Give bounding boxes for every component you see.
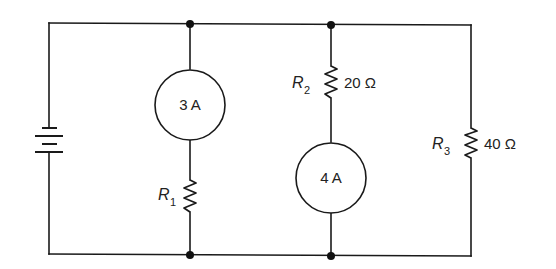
junction-node-bottom-1 — [186, 251, 194, 259]
resistor-r3-value: 40 Ω — [484, 135, 516, 152]
junction-node-top-1 — [186, 20, 194, 28]
resistor-r1-label: R 1 — [158, 186, 176, 208]
circuit-diagram: 3 A R 1 R 2 20 Ω 4 A R 3 40 Ω — [0, 0, 556, 269]
resistor-r2-icon — [325, 66, 337, 98]
current-source-4a-label: 4 A — [320, 169, 342, 186]
junction-node-bottom-2 — [327, 252, 335, 260]
junction-node-top-2 — [327, 21, 335, 29]
bottom-rail-wire — [49, 254, 471, 256]
resistor-r1-icon — [184, 180, 196, 212]
top-rail-wire — [49, 23, 471, 25]
current-source-4a: 4 A — [296, 143, 366, 213]
current-source-3a: 3 A — [155, 70, 225, 140]
svg-text:R: R — [432, 135, 444, 152]
svg-text:1: 1 — [170, 196, 176, 208]
resistor-r3-icon — [465, 128, 477, 158]
svg-text:3: 3 — [444, 145, 450, 157]
svg-text:R: R — [292, 74, 304, 91]
battery-icon — [35, 128, 63, 152]
svg-text:R: R — [158, 186, 170, 203]
current-source-3a-label: 3 A — [179, 96, 201, 113]
resistor-r2-value: 20 Ω — [344, 74, 376, 91]
svg-text:2: 2 — [304, 84, 310, 96]
